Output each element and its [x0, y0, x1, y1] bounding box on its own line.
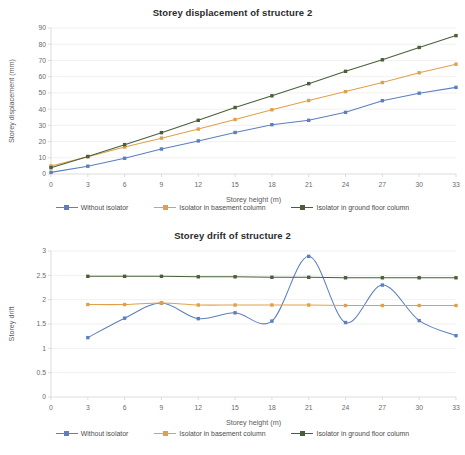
x-tick-label: 30 [415, 404, 423, 411]
legend-item-basement-column[interactable]: Isolator in basement column [154, 203, 265, 211]
y-tick-label: 2 [42, 296, 46, 303]
data-point-marker [270, 303, 273, 306]
legend-marker-ground-floor-column [291, 203, 313, 211]
data-point-marker [123, 303, 126, 306]
data-point-marker [381, 81, 384, 84]
x-tick-label: 15 [231, 181, 239, 188]
data-point-marker [86, 336, 89, 339]
y-tick-label: 40 [38, 106, 46, 113]
data-point-marker [307, 276, 310, 279]
data-point-marker [307, 303, 310, 306]
data-point-marker [454, 86, 457, 89]
x-axis-title: Storey height (m) [226, 418, 281, 427]
storey-drift-chart: Storey drift of structure 2 00.511.522.5… [0, 227, 465, 455]
data-point-marker [160, 301, 163, 304]
legend-item-without-isolator[interactable]: Without isolator [56, 203, 129, 211]
y-tick-label: 0 [42, 170, 46, 177]
data-point-marker [160, 136, 163, 139]
legend-label-ground-floor-column: Isolator in ground floor column [316, 204, 409, 211]
x-tick-label: 15 [231, 404, 239, 411]
data-point-marker [417, 92, 420, 95]
x-tick-label: 21 [305, 181, 313, 188]
legend-marker-ground-floor-column-drift [291, 429, 313, 437]
legend-label-ground-floor-column-drift: Isolator in ground floor column [316, 430, 409, 437]
legend-label-basement-column: Isolator in basement column [179, 204, 265, 211]
data-point-marker [123, 157, 126, 160]
legend-item-without-isolator-drift[interactable]: Without isolator [56, 429, 129, 437]
x-tick-label: 3 [86, 181, 90, 188]
data-point-marker [381, 99, 384, 102]
data-point-marker [123, 316, 126, 319]
data-point-marker [270, 123, 273, 126]
data-point-marker [344, 321, 347, 324]
data-point-marker [160, 275, 163, 278]
legend-marker-without-isolator-drift [56, 429, 78, 437]
data-point-marker [307, 82, 310, 85]
data-point-marker [454, 62, 457, 65]
legend-label-without-isolator-drift: Without isolator [81, 430, 129, 437]
legend-displacement: Without isolator Isolator in basement co… [0, 203, 465, 211]
x-tick-label: 18 [268, 404, 276, 411]
x-tick-label: 12 [194, 404, 202, 411]
data-point-marker [160, 131, 163, 134]
x-tick-label: 0 [49, 181, 53, 188]
x-tick-label: 33 [452, 181, 460, 188]
legend-item-basement-column-drift[interactable]: Isolator in basement column [154, 429, 265, 437]
data-point-marker [197, 317, 200, 320]
x-tick-label: 33 [452, 404, 460, 411]
data-point-marker [123, 275, 126, 278]
legend-marker-without-isolator [56, 203, 78, 211]
legend-marker-basement-column-drift [154, 429, 176, 437]
x-tick-label: 27 [379, 404, 387, 411]
data-point-marker [344, 111, 347, 114]
data-point-marker [233, 118, 236, 121]
legend-label-without-isolator: Without isolator [81, 204, 129, 211]
x-tick-label: 6 [123, 404, 127, 411]
chart-title-displacement: Storey displacement of structure 2 [0, 7, 465, 18]
data-point-marker [454, 334, 457, 337]
data-point-marker [86, 275, 89, 278]
data-point-marker [197, 119, 200, 122]
data-point-marker [381, 58, 384, 61]
data-point-marker [307, 119, 310, 122]
drift-plot: 00.511.522.5303691215182124273033Storey … [0, 243, 465, 443]
data-point-marker [344, 276, 347, 279]
data-point-marker [233, 106, 236, 109]
data-point-marker [344, 70, 347, 73]
y-tick-label: 50 [38, 89, 46, 96]
data-point-marker [344, 90, 347, 93]
data-point-marker [454, 34, 457, 37]
y-tick-label: 20 [38, 138, 46, 145]
data-point-marker [197, 127, 200, 130]
data-point-marker [307, 99, 310, 102]
data-point-marker [417, 304, 420, 307]
legend-item-ground-floor-column[interactable]: Isolator in ground floor column [291, 203, 409, 211]
x-tick-label: 21 [305, 404, 313, 411]
data-point-marker [381, 276, 384, 279]
data-point-marker [417, 319, 420, 322]
data-point-marker [344, 304, 347, 307]
data-point-marker [233, 303, 236, 306]
y-tick-label: 0.5 [37, 369, 47, 376]
data-point-marker [49, 166, 52, 169]
storey-displacement-chart: Storey displacement of structure 2 01020… [0, 0, 465, 227]
data-point-marker [233, 275, 236, 278]
x-tick-label: 3 [86, 404, 90, 411]
data-point-marker [49, 171, 52, 174]
data-point-marker [417, 71, 420, 74]
data-point-marker [454, 276, 457, 279]
data-point-marker [417, 276, 420, 279]
legend-drift: Without isolator Isolator in basement co… [0, 429, 465, 437]
x-tick-label: 0 [49, 404, 53, 411]
x-tick-label: 9 [160, 404, 164, 411]
data-point-marker [381, 283, 384, 286]
data-point-marker [197, 139, 200, 142]
x-tick-label: 24 [342, 181, 350, 188]
displacement-plot: 010203040506070809003691215182124273033S… [0, 20, 465, 220]
x-tick-label: 24 [342, 404, 350, 411]
x-tick-label: 12 [194, 181, 202, 188]
x-tick-label: 6 [123, 181, 127, 188]
data-point-marker [454, 304, 457, 307]
legend-item-ground-floor-column-drift[interactable]: Isolator in ground floor column [291, 429, 409, 437]
data-point-marker [270, 319, 273, 322]
